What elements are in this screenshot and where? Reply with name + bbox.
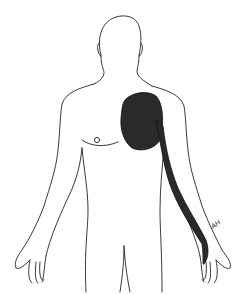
body-diagram: AH [0, 0, 243, 295]
artist-signature: AH [209, 218, 223, 230]
right-arm-outline [15, 84, 94, 283]
body-outline-figure: AH [0, 0, 243, 295]
head-outline [94, 16, 152, 86]
nipple-mark [94, 137, 99, 142]
chest-line [82, 140, 118, 146]
left-arm-outline [152, 86, 231, 283]
torso-outline [82, 148, 164, 292]
affected-arm-band [156, 120, 208, 264]
